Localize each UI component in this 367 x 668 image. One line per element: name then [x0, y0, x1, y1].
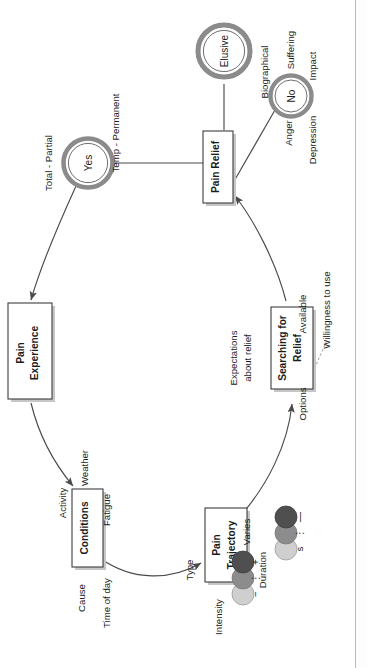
legend-duration-mark-long: —: [294, 512, 305, 522]
label-available: Available: [297, 295, 308, 334]
legend-duration-mark-mid: ⋮: [294, 528, 305, 538]
label-intensity: Intensity: [213, 599, 224, 635]
legend-intensity: + ⋮ −: [232, 551, 261, 605]
diagram-canvas: Pain Relief --> Pain Relief (horizontal)…: [0, 0, 367, 668]
node-label-pain-experience-line2: Experience: [29, 325, 40, 380]
page-border-line: [355, 0, 356, 668]
node-label-searching-line1: Searching for: [277, 315, 288, 381]
page-margin: [356, 0, 367, 668]
legend-intensity-mark-high: +: [250, 559, 261, 565]
label-type: Type: [184, 560, 195, 581]
edge-paintrajectory-searching: [236, 404, 292, 521]
label-expectations-line1: Expectations: [228, 330, 239, 385]
concept-map-svg: Pain Relief --> Pain Relief (horizontal)…: [0, 0, 367, 668]
edge-yes-painexperience: [31, 186, 76, 300]
label-total-partial: Total - Partial: [43, 135, 54, 191]
node-label-pain-trajectory-line1: Pain: [211, 534, 222, 556]
label-temp-permanent: Temp - Permanent: [110, 93, 121, 172]
label-impact: Impact: [307, 51, 318, 80]
legend-intensity-mark-low: −: [250, 591, 261, 597]
legend-intensity-mark-mid: ⋮: [250, 573, 261, 583]
edge-no-painrelief: [233, 110, 275, 183]
node-yes[interactable]: Yes: [64, 139, 113, 188]
label-weather: Weather: [79, 449, 90, 486]
node-label-searching-line2: Relief: [292, 334, 303, 362]
edge-painexperience-conditions: [31, 403, 73, 486]
node-searching-for-relief[interactable]: Searching for Relief: [271, 307, 316, 392]
legend-duration-mark-short: s: [294, 546, 305, 551]
label-depression: Depression: [307, 116, 318, 165]
label-cause: Cause: [76, 584, 87, 612]
node-label-pain-relief: Pain Relief: [210, 140, 221, 193]
node-label-elusive: Elusive: [219, 34, 230, 67]
node-elusive[interactable]: Elusive: [198, 25, 250, 77]
node-label-no: No: [286, 89, 297, 102]
label-time-of-day: Time of day: [101, 578, 112, 628]
label-willingness: Willingness to use: [321, 271, 332, 348]
label-suffering: Suffering: [285, 31, 296, 69]
edge-searching-painrelief: [235, 196, 286, 301]
label-options: Options: [297, 387, 308, 420]
label-expectations-line2: about relief: [242, 334, 253, 382]
label-activity: Activity: [57, 488, 68, 519]
node-no[interactable]: No: [271, 76, 312, 117]
node-label-pain-experience-line1: Pain: [15, 342, 26, 364]
label-fatigue: Fatigue: [101, 494, 112, 526]
node-label-conditions: Conditions: [79, 501, 90, 555]
legend-duration: s ⋮ —: [275, 506, 305, 560]
label-biographical: Biographical: [259, 46, 270, 99]
node-pain-experience[interactable]: Pain Experience: [8, 303, 55, 402]
label-varies: Varies: [241, 519, 252, 546]
node-label-yes: Yes: [83, 155, 94, 171]
label-anger: Anger: [283, 119, 294, 145]
node-pain-relief[interactable]: Pain Relief: [203, 131, 236, 206]
